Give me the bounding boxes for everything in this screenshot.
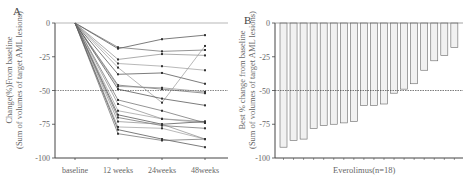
panel-b-y-tick-label: -75: [259, 120, 270, 129]
panel-a-y-tick-label: -75: [39, 120, 50, 129]
panel-a-data-point: [117, 46, 119, 48]
panel-b-bar: [290, 23, 297, 140]
panel-a-data-point: [161, 72, 163, 74]
panel-a-data-point: [117, 99, 119, 101]
panel-a-data-point: [161, 123, 163, 125]
panel-a-data-point: [117, 88, 119, 90]
panel-a-data-point: [161, 87, 163, 89]
panel-a-data-point: [161, 65, 163, 67]
panel-a-data-point: [204, 83, 206, 85]
panel-a-data-point: [117, 58, 119, 60]
panel-a-data-point: [204, 54, 206, 56]
panel-b-y-tick-label: -50: [259, 87, 270, 96]
panel-a-data-point: [161, 118, 163, 120]
panel-a-data-point: [204, 91, 206, 93]
panel-a-line-chart: A Change(%)From baseline (Sum of volumes…: [0, 0, 235, 188]
panel-a-data-point: [117, 129, 119, 131]
panel-a-series-line: [75, 23, 205, 128]
panel-a-data-point: [161, 102, 163, 104]
panel-a-plot-area: 0-25-50-75-100baseline12 weeks24weeks48w…: [0, 0, 235, 188]
panel-a-data-point: [117, 85, 119, 87]
panel-b-bar: [381, 23, 388, 104]
panel-b-bar: [330, 23, 337, 124]
panel-a-x-tick-label: 12 weeks: [103, 166, 133, 175]
panel-a-data-point: [117, 63, 119, 65]
panel-b-bar: [411, 23, 418, 84]
panel-b-bar: [320, 23, 327, 126]
panel-a-data-point: [117, 67, 119, 69]
panel-a-data-point: [161, 53, 163, 55]
panel-a-x-tick-label: baseline: [62, 166, 89, 175]
panel-a-data-point: [204, 138, 206, 140]
panel-a-y-tick-label: -100: [35, 154, 50, 163]
panel-a-data-point: [204, 104, 206, 106]
panel-a-data-point: [117, 103, 119, 105]
panel-b-bar: [431, 23, 438, 61]
panel-b-plot-area: 0-25-50-75-100: [235, 0, 469, 188]
panel-b-bar: [451, 23, 458, 47]
panel-a-x-tick-label: 24weeks: [148, 166, 176, 175]
panel-a-data-point: [204, 127, 206, 129]
panel-a-data-point: [161, 50, 163, 52]
panel-b-bar: [360, 23, 367, 105]
panel-b-y-tick-label: 0: [266, 19, 270, 28]
panel-a-data-point: [204, 49, 206, 51]
panel-a-data-point: [204, 45, 206, 47]
panel-a-data-point: [161, 98, 163, 100]
panel-a-y-tick-label: 0: [46, 19, 50, 28]
panel-a-y-tick-label: -25: [39, 53, 50, 62]
panel-b-bar: [401, 23, 408, 89]
panel-b-y-tick-label: -25: [259, 53, 270, 62]
panel-a-data-point: [204, 146, 206, 148]
panel-b-bar: [391, 23, 398, 93]
panel-a-data-point: [117, 73, 119, 75]
panel-a-data-point: [117, 133, 119, 135]
panel-a-data-point: [117, 117, 119, 119]
panel-a-data-point: [117, 110, 119, 112]
panel-b-bar: [300, 23, 307, 139]
panel-a-series-line: [75, 23, 205, 49]
panel-b-y-tick-label: -100: [255, 154, 270, 163]
panel-a-data-point: [161, 139, 163, 141]
panel-a-x-tick-label: 48weeks: [191, 166, 219, 175]
panel-a-data-point: [117, 121, 119, 123]
panel-a-data-point: [161, 110, 163, 112]
panel-a-data-point: [161, 38, 163, 40]
panel-a-data-point: [161, 127, 163, 129]
panel-b-bar: [370, 23, 377, 105]
panel-b-bar: [421, 23, 428, 70]
panel-a-data-point: [204, 121, 206, 123]
panel-b-bar-chart: B Best % change from baseline (Sum of vo…: [235, 0, 469, 188]
panel-a-data-point: [204, 34, 206, 36]
panel-b-bar: [350, 23, 357, 122]
panel-b-bar: [280, 23, 287, 147]
panel-b-bar: [310, 23, 317, 128]
panel-a-y-tick-label: -50: [39, 87, 50, 96]
panel-a-data-point: [204, 69, 206, 71]
panel-b-bar: [340, 23, 347, 123]
panel-b-bar: [441, 23, 448, 55]
